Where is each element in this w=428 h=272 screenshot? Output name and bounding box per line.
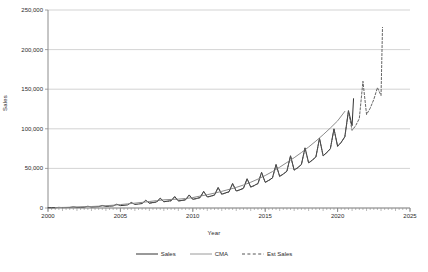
x-axis-title-text: Year	[208, 230, 221, 236]
legend-label: Sales	[161, 251, 176, 257]
x-axis-title: Year	[0, 230, 428, 236]
sales-forecast-chart: 050,000100,000150,000200,000250,000 2000…	[0, 0, 428, 272]
y-tick-label: 50,000	[0, 165, 43, 171]
legend-swatch	[242, 251, 264, 257]
legend-swatch	[136, 251, 158, 257]
legend-label: CMA	[215, 251, 228, 257]
series-line-cma	[55, 111, 345, 207]
y-tick-label: 250,000	[0, 7, 43, 13]
x-tick-label: 2010	[173, 213, 213, 219]
x-tick-label: 2025	[390, 213, 428, 219]
x-tick-label: 2015	[245, 213, 285, 219]
y-tick-label: 0	[0, 205, 43, 211]
y-tick-label: 100,000	[0, 126, 43, 132]
y-axis-title: Sales	[2, 79, 8, 95]
legend-item-sales: Sales	[136, 251, 176, 257]
x-tick-label: 2005	[100, 213, 140, 219]
y-tick-label: 200,000	[0, 47, 43, 53]
legend-swatch	[190, 251, 212, 257]
legend-label: Est Sales	[267, 251, 292, 257]
legend-item-cma: CMA	[190, 251, 228, 257]
x-tick-label: 2020	[318, 213, 358, 219]
legend-item-est-sales: Est Sales	[242, 251, 292, 257]
chart-legend: SalesCMAEst Sales	[0, 251, 428, 257]
x-tick-label: 2000	[28, 213, 68, 219]
y-axis-title-text: Sales	[2, 95, 8, 111]
series-line-est-sales	[149, 27, 382, 203]
series-line-sales	[48, 99, 354, 208]
